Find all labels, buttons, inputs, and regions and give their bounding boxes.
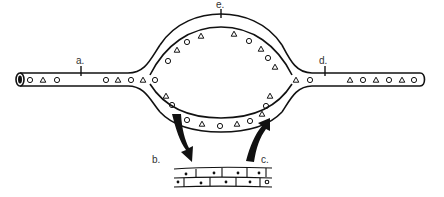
label-c: c. [261, 154, 269, 165]
tissue-cells [174, 167, 272, 187]
label-a: a. [76, 55, 84, 66]
cells-loop-top [165, 31, 277, 69]
capillary-loop [150, 14, 292, 132]
label-e: e. [216, 0, 224, 10]
label-d: d. [319, 55, 327, 66]
cells-left [27, 77, 157, 82]
cells-right [293, 77, 416, 82]
label-b: b. [152, 154, 160, 165]
left-vessel [16, 45, 160, 112]
blood-vessel-diagram: a. e. d. b. c. [0, 0, 444, 197]
